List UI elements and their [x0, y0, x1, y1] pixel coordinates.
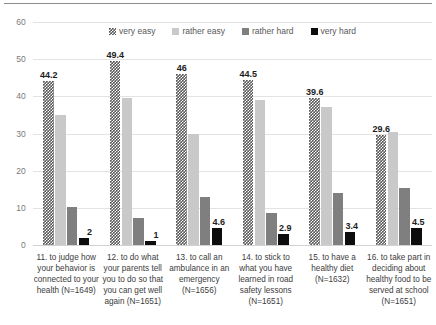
bar-value-label-very-hard-group-5: 3.4: [346, 222, 359, 231]
bar-value-label-very-hard-group-4: 2.9: [279, 224, 292, 233]
bar-rather-hard-group-1: [67, 207, 78, 245]
bar-value-label-very-easy-group-1: 44.2: [40, 71, 58, 80]
bar-very-easy-group-1: 44.2: [43, 81, 54, 245]
bar-rather-hard-group-3: [200, 197, 211, 245]
y-axis-tick-10: 10: [0, 203, 26, 213]
bar-value-label-very-easy-group-2: 49.4: [106, 51, 124, 60]
bar-rather-hard-group-4: [266, 213, 277, 245]
bar-group-1: 44.22: [33, 22, 100, 245]
x-axis-label-group-3: 13. to call anambulance in anemergency(N…: [164, 252, 235, 296]
grouped-bar-chart: very easy rather easy rather hard very h…: [0, 0, 436, 325]
x-axis-label-group-5: 15. to have ahealthy diet(N=1632): [297, 252, 368, 285]
bar-value-label-very-easy-group-5: 39.6: [306, 88, 324, 97]
x-axis-label-group-6: 16. to take part indeciding abouthealthy…: [364, 252, 435, 307]
bar-very-hard-group-1: 2: [79, 238, 90, 245]
bar-very-hard-group-5: 3.4: [345, 232, 356, 245]
bar-very-easy-group-5: 39.6: [309, 98, 320, 245]
bar-group-6: 29.64.5: [366, 22, 433, 245]
bar-value-label-very-hard-group-2: 1: [154, 231, 159, 240]
x-axis-category-labels: 11. to judge howyour behavior isconnecte…: [33, 252, 432, 324]
bar-value-label-very-hard-group-6: 4.5: [412, 218, 425, 227]
bar-group-5: 39.63.4: [299, 22, 366, 245]
bar-rather-hard-group-2: [133, 218, 144, 245]
x-axis-label-group-1: 11. to judge howyour behavior isconnecte…: [31, 252, 102, 296]
bar-rather-easy-group-6: [388, 132, 399, 245]
bar-very-easy-group-6: 29.6: [376, 135, 387, 245]
bar-group-2: 49.41: [100, 22, 167, 245]
bar-group-3: 464.6: [166, 22, 233, 245]
y-axis-tick-40: 40: [0, 91, 26, 101]
y-axis-tick-50: 50: [0, 54, 26, 64]
bar-value-label-very-hard-group-3: 4.6: [213, 218, 226, 227]
bar-value-label-very-easy-group-4: 44.5: [239, 70, 257, 79]
bar-group-4: 44.52.9: [233, 22, 300, 245]
bar-value-label-very-easy-group-3: 46: [177, 64, 187, 73]
top-divider-rule: [4, 3, 432, 4]
bar-rather-easy-group-5: [321, 107, 332, 245]
y-axis-tick-30: 30: [0, 129, 26, 139]
bar-very-easy-group-3: 46: [176, 74, 187, 245]
gridline-0: [33, 245, 432, 246]
bar-rather-hard-group-6: [399, 188, 410, 245]
x-axis-label-group-4: 14. to stick towhat you havelearned in r…: [231, 252, 302, 307]
bar-very-hard-group-6: 4.5: [411, 228, 422, 245]
bar-rather-easy-group-2: [122, 98, 133, 245]
y-axis-tick-60: 60: [0, 17, 26, 27]
bar-very-easy-group-4: 44.5: [243, 80, 254, 245]
plot-area: 44.2249.41464.644.52.939.63.429.64.5: [33, 22, 432, 245]
x-axis-label-group-2: 12. to do whatyour parents tellyou to do…: [98, 252, 169, 307]
bar-very-hard-group-4: 2.9: [278, 234, 289, 245]
bar-value-label-very-hard-group-1: 2: [87, 228, 92, 237]
y-axis-tick-20: 20: [0, 166, 26, 176]
bar-very-hard-group-2: 1: [145, 241, 156, 245]
bar-very-easy-group-2: 49.4: [110, 61, 121, 245]
y-axis-tick-0: 0: [0, 240, 26, 250]
bar-rather-easy-group-1: [55, 115, 66, 245]
bar-very-hard-group-3: 4.6: [212, 228, 223, 245]
bar-rather-easy-group-3: [188, 134, 199, 246]
bar-rather-hard-group-5: [333, 193, 344, 245]
bar-rather-easy-group-4: [255, 100, 266, 245]
